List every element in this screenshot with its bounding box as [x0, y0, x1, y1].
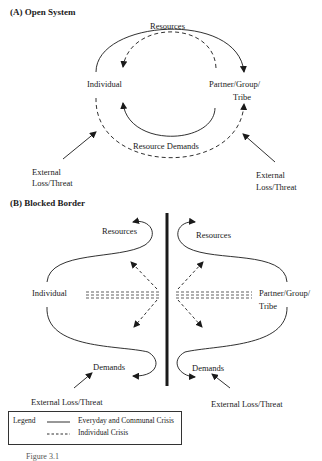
panel-a-external-left-line1: External	[32, 167, 61, 177]
external-arrow-left	[63, 132, 96, 159]
external-arrow-right	[243, 134, 275, 162]
panel-a-partner-node-line2: Tribe	[233, 92, 251, 102]
panel-a-external-right-line2: Loss/Threat	[256, 182, 297, 192]
legend-title: Legend	[13, 416, 36, 425]
legend-box: Legend Everyday and Communal Crisis Indi…	[8, 411, 182, 445]
panel-a-title: (A) Open System	[10, 7, 76, 17]
solid-demands-arc	[123, 103, 215, 136]
panel-b-partner-node-line1: Partner/Group/	[259, 288, 310, 298]
panel-b-title: (B) Blocked Border	[10, 198, 85, 208]
panel-b-resources-left-label: Resources	[102, 226, 137, 236]
panel-a-external-right-line1: External	[256, 170, 285, 180]
panel-a-resources-label: Resources	[150, 21, 185, 31]
legend-item-solid: Everyday and Communal Crisis	[78, 416, 174, 425]
panel-b-external-right-label: External Loss/Threat	[211, 399, 283, 409]
right-resources-loop	[178, 222, 287, 282]
panel-a-partner-node-line1: Partner/Group/	[209, 79, 260, 89]
panel-a-external-left-line2: Loss/Threat	[32, 178, 73, 188]
panel-b-partner-node-line2: Tribe	[259, 301, 277, 311]
panel-b-external-left-label: External Loss/Threat	[31, 397, 103, 407]
solid-resources-arc	[96, 29, 244, 72]
dashed-arrow-left-down	[134, 300, 157, 327]
panel-b-resources-right-label: Resources	[196, 230, 231, 240]
external-arrow-b-right	[212, 374, 230, 388]
panel-b-demands-left-label: Demands	[93, 362, 125, 372]
dashed-arrow-left-up	[131, 262, 157, 289]
panel-b-individual-node: Individual	[32, 288, 67, 298]
dashed-resources-arc	[123, 32, 216, 68]
dashed-arrow-right-up	[178, 262, 203, 289]
figure-caption: Figure 3.1	[26, 452, 59, 461]
panel-a-individual-node: Individual	[87, 79, 122, 89]
panel-b-demands-right-label: Demands	[192, 363, 224, 373]
external-arrow-b-left	[74, 373, 92, 388]
legend-item-dashed: Individual Crisis	[78, 428, 128, 437]
panel-a-resource-demands-label: Resource Demands	[133, 141, 199, 151]
dashed-arrow-right-down	[178, 300, 202, 327]
